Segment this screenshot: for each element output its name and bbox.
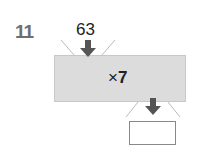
arrow-down-icon bbox=[145, 98, 161, 115]
answer-box[interactable] bbox=[129, 121, 176, 145]
arrow-down-icon bbox=[80, 40, 96, 57]
